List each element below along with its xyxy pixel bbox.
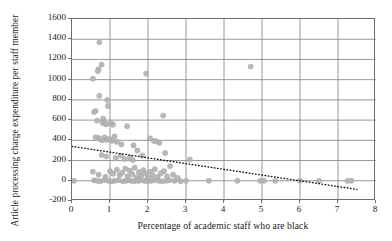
x-tick-mark (109, 200, 110, 203)
y-tick-label: 200 (28, 154, 66, 164)
x-tick-mark (185, 200, 186, 203)
scatter-chart-figure: Article processing charge expenditure pe… (0, 0, 392, 241)
y-tick-mark (68, 180, 71, 181)
y-tick-mark (68, 79, 71, 80)
y-tick-label: 1200 (28, 52, 66, 62)
y-tick-label: -200 (28, 194, 66, 204)
x-tick-label: 3 (170, 204, 200, 214)
y-tick-label: 800 (28, 93, 66, 103)
y-tick-mark (68, 160, 71, 161)
plot-area (71, 18, 375, 200)
x-tick-mark (147, 200, 148, 203)
y-tick-mark (68, 99, 71, 100)
x-tick-mark (261, 200, 262, 203)
x-tick-label: 4 (208, 204, 238, 214)
x-tick-label: 5 (246, 204, 276, 214)
y-tick-label: 1400 (28, 32, 66, 42)
y-tick-mark (68, 139, 71, 140)
x-tick-label: 8 (360, 204, 390, 214)
y-tick-label: 0 (28, 174, 66, 184)
y-tick-mark (68, 18, 71, 19)
y-tick-label: 1600 (28, 12, 66, 22)
y-tick-label: 1000 (28, 73, 66, 83)
x-axis-title: Percentage of academic staff who are bla… (71, 220, 375, 231)
x-axis-title-text: Percentage of academic staff who are bla… (138, 220, 309, 231)
x-tick-label: 0 (56, 204, 86, 214)
y-tick-label: 600 (28, 113, 66, 123)
x-tick-label: 6 (284, 204, 314, 214)
x-tick-label: 1 (94, 204, 124, 214)
y-tick-mark (68, 38, 71, 39)
plot-svg (72, 19, 376, 201)
y-tick-mark (68, 119, 71, 120)
x-tick-label: 2 (132, 204, 162, 214)
y-tick-label: 400 (28, 133, 66, 143)
x-tick-mark (337, 200, 338, 203)
y-tick-mark (68, 58, 71, 59)
y-axis-title-text: Article processing charge expenditure pe… (10, 14, 20, 226)
x-tick-mark (375, 200, 376, 203)
x-tick-label: 7 (322, 204, 352, 214)
scatter-points (72, 40, 354, 184)
x-tick-mark (223, 200, 224, 203)
x-tick-mark (299, 200, 300, 203)
y-axis-title: Article processing charge expenditure pe… (0, 0, 30, 241)
x-tick-mark (71, 200, 72, 203)
